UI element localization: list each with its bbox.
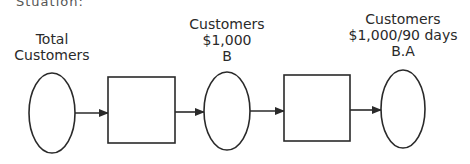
node-total-customers [29, 73, 75, 153]
node-customers-1000 [204, 72, 250, 150]
flow-diagram [0, 0, 470, 164]
node-customers-1000-90-days [381, 70, 425, 148]
process-box-2 [284, 75, 350, 141]
process-box-1 [108, 77, 175, 143]
